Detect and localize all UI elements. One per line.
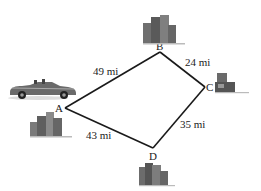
city-buildings-icon-a — [30, 112, 72, 138]
convertible-car-icon — [8, 79, 76, 100]
edge-label-b-c: 24 mi — [185, 56, 210, 68]
city-buildings-icon-c — [215, 73, 249, 93]
edge-label-c-d: 35 mi — [180, 118, 205, 130]
route-diagram: 49 mi 24 mi 35 mi 43 mi A B C D — [0, 0, 261, 191]
edge-label-d-a: 43 mi — [86, 129, 111, 141]
edge-d-a — [65, 108, 153, 148]
vertex-label-c: C — [206, 81, 213, 93]
vertex-label-d: D — [149, 150, 157, 162]
city-buildings-icon-b — [143, 15, 185, 45]
city-buildings-icon-d — [139, 163, 175, 186]
vertex-label-a: A — [55, 102, 63, 114]
edge-label-a-b: 49 mi — [93, 65, 118, 77]
edge-a-b — [65, 52, 160, 108]
